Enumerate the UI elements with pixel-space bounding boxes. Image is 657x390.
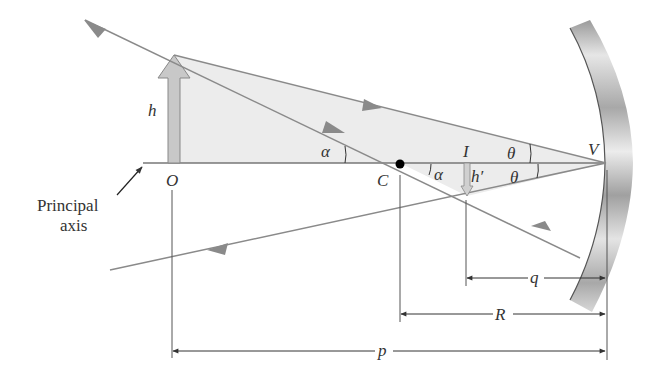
label-h: h (148, 101, 157, 120)
label-R: R (494, 305, 506, 324)
label-principal: Principal (37, 196, 99, 215)
center-of-curvature-point (396, 160, 405, 169)
label-theta-upper: θ (507, 144, 515, 163)
label-p: p (377, 341, 387, 360)
ray-arrowhead-reflected-center (531, 221, 551, 231)
label-O: O (166, 171, 178, 190)
ray-diagram: h O C I h′ V α α θ θ Principal axis q R … (0, 0, 657, 390)
ray-arrowhead-outgoing (84, 20, 106, 38)
ray-reflected-through-image (110, 163, 606, 270)
label-C: C (377, 171, 389, 190)
label-axis: axis (60, 216, 87, 235)
label-q: q (530, 268, 539, 287)
label-alpha-lower: α (434, 165, 444, 184)
label-V: V (588, 140, 601, 159)
label-theta-lower: θ (510, 168, 518, 187)
principal-axis-pointer (117, 167, 142, 195)
label-alpha-upper: α (321, 142, 331, 161)
label-h-prime: h′ (471, 167, 484, 186)
ray-arrowhead-reflected-out (207, 243, 228, 255)
